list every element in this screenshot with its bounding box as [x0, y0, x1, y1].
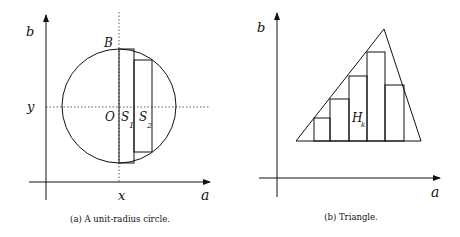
a-label-a: a [201, 187, 209, 203]
a-label-S1-sub: 1 [129, 121, 134, 130]
a-label-y: y [26, 99, 35, 114]
panel-b-triangle: b H k a (b) Triangle. [257, 13, 440, 222]
b-label-b: b [257, 20, 265, 35]
figure-canvas: b B y O S 1 S 2 x a (a) A unit-radius ci… [0, 0, 460, 237]
a-label-S2-sub: 2 [146, 121, 152, 130]
triangle-rect-2 [330, 99, 349, 141]
strip-s1 [119, 49, 134, 163]
strip-s2 [134, 60, 152, 152]
triangle-rect-3 [349, 76, 367, 141]
a-label-O: O [105, 110, 115, 124]
a-label-B: B [103, 36, 113, 50]
b-label-a: a [431, 184, 439, 200]
a-label-S1: S [121, 110, 129, 124]
a-label-S2: S [139, 110, 147, 124]
panel-a-circle: b B y O S 1 S 2 x a (a) A unit-radius ci… [26, 12, 210, 224]
triangle-rect-4 [367, 52, 385, 141]
triangle-rect-1 [314, 118, 330, 141]
a-label-b: b [26, 24, 34, 39]
caption-b: (b) Triangle. [324, 212, 378, 222]
b-label-H-sub: k [361, 121, 365, 129]
triangle-rect-5 [385, 85, 404, 141]
a-label-x: x [118, 188, 126, 203]
caption-a: (a) A unit-radius circle. [70, 214, 170, 224]
